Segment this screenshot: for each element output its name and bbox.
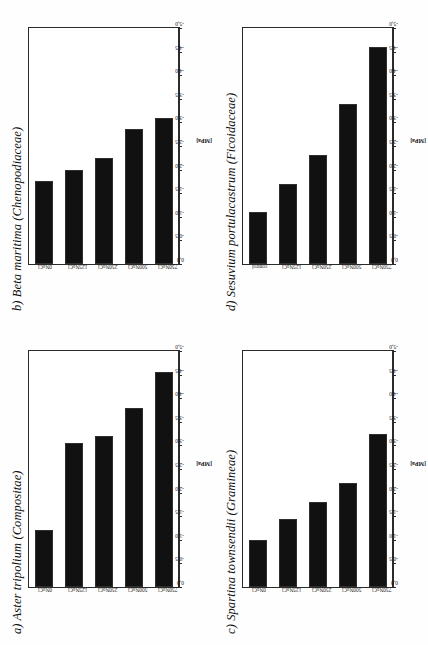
axis-tick	[392, 217, 396, 218]
axis-tick	[178, 421, 182, 422]
bar	[65, 170, 83, 264]
axis-tick-label: -1,5	[389, 186, 398, 192]
axis-tick	[392, 264, 396, 265]
bar	[369, 433, 387, 586]
axis-tick-label: 0,0	[391, 257, 398, 263]
bar	[35, 530, 53, 587]
axis-title: [MPa]	[410, 138, 426, 144]
axis-tick	[178, 492, 182, 493]
axis-tick	[178, 587, 182, 588]
axis-tick-label: -5,0	[389, 21, 398, 27]
axis-tick	[178, 52, 182, 53]
bar-row	[65, 28, 83, 264]
axis-tick-label: -3,0	[175, 115, 184, 121]
error-bar	[342, 58, 354, 61]
axis-tick-label: -5,0	[175, 21, 184, 27]
category-label: 125NaCl	[68, 587, 87, 593]
axis-tick	[178, 146, 182, 147]
axis-tick	[392, 398, 396, 399]
category-label: 500NaCl	[128, 587, 147, 593]
bar-row	[309, 351, 327, 587]
axis-tick-label: -2,0	[175, 485, 184, 491]
axis-tick	[178, 75, 182, 76]
axis-tick	[178, 516, 182, 517]
axis-tick	[392, 351, 396, 352]
bar	[35, 181, 53, 264]
axis-tick-label: -2,5	[389, 139, 398, 145]
axis-tick	[178, 170, 182, 171]
error-bar	[312, 122, 324, 125]
bar	[155, 372, 173, 587]
plot-area-a: 0NaCl125NaCl250NaCl500NaCl750NaCl	[28, 350, 180, 588]
axis-tick-label: -2,5	[175, 139, 184, 145]
value-axis-b: 0,0-0,5-1,0-1,5-2,0-2,5-3,0-3,5-4,0-4,5-…	[178, 29, 179, 265]
bar-row	[279, 351, 297, 587]
error-bar	[312, 475, 324, 478]
axis-tick	[392, 146, 396, 147]
bar-row	[249, 351, 267, 587]
axis-tick	[178, 122, 182, 123]
axis-tick	[392, 516, 396, 517]
panel-a: a) Aster tripolium (Compositae) 0NaCl125…	[0, 322, 214, 645]
axis-tick	[178, 469, 182, 470]
error-bar	[38, 176, 50, 179]
bar	[125, 129, 143, 264]
axis-tick	[178, 264, 182, 265]
bar	[95, 435, 113, 586]
plot-area-d: control125NaCl250NaCl500NaCl750NaCl	[242, 27, 394, 265]
axis-tick-label: -3,0	[175, 438, 184, 444]
axis-tick-label: -4,0	[175, 391, 184, 397]
bar	[339, 104, 357, 264]
bar	[369, 47, 387, 264]
axis-tick	[178, 193, 182, 194]
axis-tick	[392, 28, 396, 29]
axis-tick-label: 0,0	[391, 580, 398, 586]
axis-tick-label: -3,5	[175, 414, 184, 420]
axis-tick	[178, 351, 182, 352]
error-bar	[98, 402, 110, 405]
panel-title: d) Sesuvium portulacastrum (Ficoidaceae)	[224, 11, 239, 311]
panel-title: b) Beta maritima (Chenopodiaceae)	[10, 11, 25, 311]
bar-row	[125, 351, 143, 587]
axis-tick-label: -2,0	[389, 163, 398, 169]
category-label: 250NaCl	[312, 264, 331, 270]
bar-row	[125, 28, 143, 264]
bar	[279, 184, 297, 264]
panel-title: c) Spartina townsendii (Gramineae)	[224, 334, 239, 634]
category-label: 125NaCl	[68, 264, 87, 270]
bar	[155, 118, 173, 264]
category-label: 0NaCl	[38, 587, 52, 593]
axis-tick	[392, 445, 396, 446]
error-bar	[68, 150, 80, 153]
axis-tick-label: -1,0	[175, 210, 184, 216]
axis-tick-label: -1,5	[389, 509, 398, 515]
bar-row	[279, 28, 297, 264]
axis-tick-label: -2,5	[389, 462, 398, 468]
figure-root: b) Beta maritima (Chenopodiaceae) 0NaCl1…	[0, 0, 428, 645]
error-bar	[282, 501, 294, 504]
error-bar	[158, 89, 170, 92]
bar	[125, 407, 143, 586]
bar-row	[369, 351, 387, 587]
category-label: 750NaCl	[158, 264, 177, 270]
axis-tick-label: -1,0	[389, 210, 398, 216]
bar	[309, 502, 327, 587]
value-axis-c: 0,0-0,5-1,0-1,5-2,0-2,5-3,0-3,5-4,0-4,5-…	[392, 352, 393, 588]
error-bar	[38, 525, 50, 528]
value-axis-a: 0,0-0,5-1,0-1,5-2,0-2,5-3,0-3,5-4,0-4,5-…	[178, 352, 179, 588]
axis-tick	[392, 193, 396, 194]
axis-tick	[392, 563, 396, 564]
plot-area-c: 0NaCl125NaCl250NaCl500NaCl750NaCl	[242, 350, 394, 588]
axis-tick	[178, 240, 182, 241]
axis-tick	[392, 492, 396, 493]
axis-tick-label: -0,5	[175, 233, 184, 239]
panel-c: c) Spartina townsendii (Gramineae) 0NaCl…	[214, 322, 428, 645]
category-label: 750NaCl	[158, 587, 177, 593]
axis-tick	[178, 563, 182, 564]
plot-area-b: 0NaCl125NaCl250NaCl500NaCl750NaCl	[28, 27, 180, 265]
axis-tick	[392, 421, 396, 422]
bar	[249, 212, 267, 264]
panel-grid: b) Beta maritima (Chenopodiaceae) 0NaCl1…	[0, 0, 428, 645]
axis-tick	[392, 75, 396, 76]
axis-title: [MPa]	[410, 461, 426, 467]
